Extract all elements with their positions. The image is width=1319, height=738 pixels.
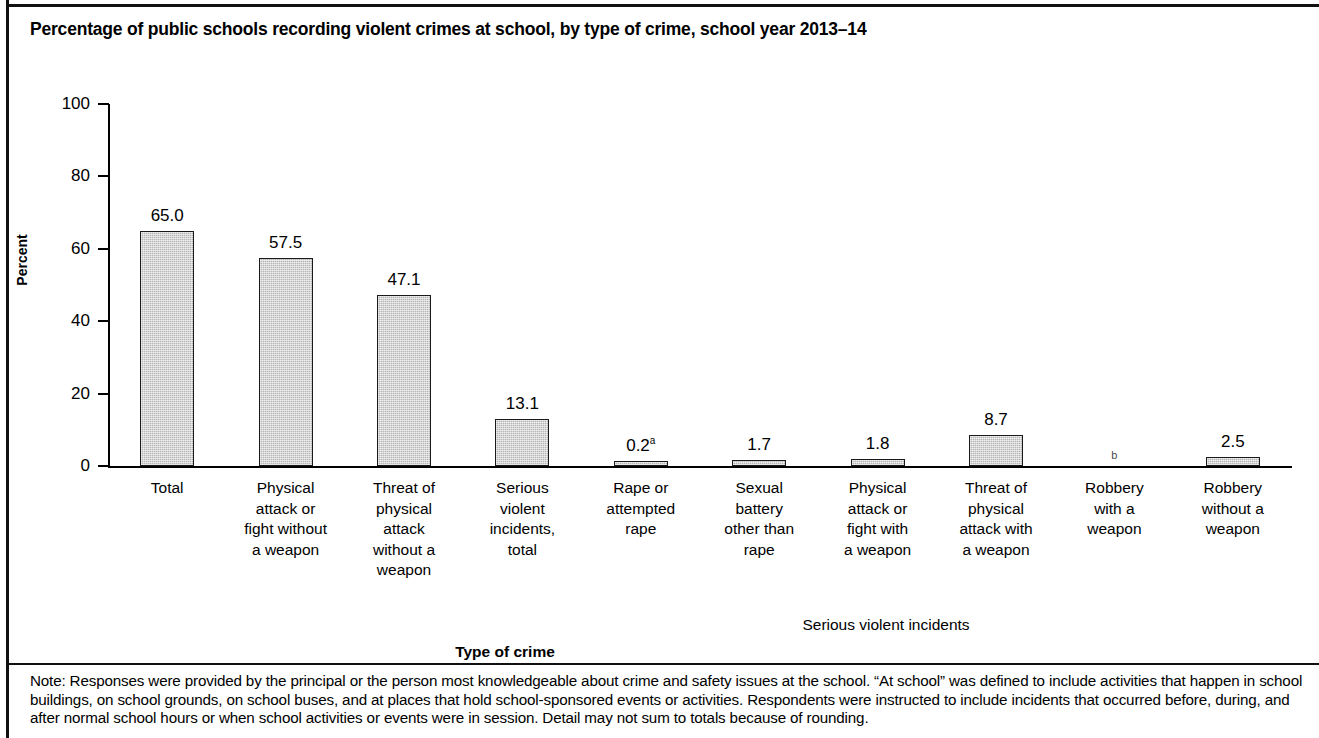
- y-axis-line: [108, 104, 110, 467]
- y-axis-tick-label: 0: [30, 457, 90, 474]
- x-axis-category-label: Rape orattemptedrape: [582, 478, 700, 540]
- bar: [732, 460, 786, 466]
- bar-value-label: 13.1: [462, 395, 582, 413]
- x-axis-line: [108, 466, 1292, 468]
- y-axis-title: Percent: [14, 220, 30, 300]
- x-axis-category-label: Total: [108, 478, 226, 499]
- page-frame-bottom-border: [6, 663, 1319, 665]
- bar: [377, 295, 431, 466]
- x-axis-category-label: Robberywithout aweapon: [1174, 478, 1292, 540]
- bar-value-label: 57.5: [226, 234, 346, 252]
- x-axis-category-label: Sexualbatteryother thanrape: [700, 478, 818, 560]
- y-axis-tick-mark: [98, 175, 109, 177]
- x-axis-category-label: Physicalattack orfight witha weapon: [818, 478, 936, 560]
- y-axis-tick-mark: [98, 393, 109, 395]
- y-axis-tick-label: 60: [30, 240, 90, 257]
- bar-value-label: 0.2a: [581, 437, 701, 455]
- y-axis-tick-label: 100: [30, 95, 90, 112]
- y-axis-tick-mark: [98, 465, 109, 467]
- bar-value-label: 65.0: [107, 207, 227, 225]
- bar-value-label: 8.7: [936, 411, 1056, 429]
- bar-value-label: 2.5: [1173, 433, 1293, 451]
- bar: [1206, 457, 1260, 466]
- bar: [495, 419, 549, 466]
- bar-value-label: 47.1: [344, 271, 464, 289]
- x-axis-category-label: Threat ofphysicalattack witha weapon: [937, 478, 1055, 560]
- y-axis-tick-mark: [98, 320, 109, 322]
- y-axis-tick-label: 40: [30, 312, 90, 329]
- bar: [140, 231, 194, 466]
- bar: [851, 459, 905, 466]
- x-axis-category-label: Robberywith aweapon: [1055, 478, 1173, 540]
- bar: [259, 258, 313, 466]
- chart-note: Note: Responses were provided by the pri…: [30, 672, 1305, 728]
- bar-chart-plot-area: Percent 020406080100 65.057.547.113.10.2…: [0, 0, 1319, 660]
- y-axis-tick-mark: [98, 248, 109, 250]
- bar: [969, 435, 1023, 466]
- x-axis-category-label: Threat ofphysicalattackwithout aweapon: [345, 478, 463, 581]
- chart-page: Percentage of public schools recording v…: [0, 0, 1319, 738]
- bar-value-label: 1.7: [699, 436, 819, 454]
- x-axis-category-label: Physicalattack orfight withouta weapon: [226, 478, 344, 560]
- x-axis-category-label: Seriousviolentincidents,total: [463, 478, 581, 560]
- y-axis-tick-label: 80: [30, 167, 90, 184]
- bar: [614, 461, 668, 466]
- bar-value-label: b: [1054, 446, 1174, 464]
- y-axis-tick-mark: [98, 103, 109, 105]
- y-axis-tick-label: 20: [30, 385, 90, 402]
- group-annotation-serious-violent-incidents: Serious violent incidents: [672, 616, 1100, 634]
- bar-value-label: 1.8: [818, 435, 938, 453]
- x-axis-title: Type of crime: [0, 643, 1010, 661]
